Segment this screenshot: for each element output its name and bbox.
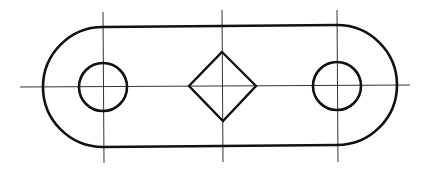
technical-drawing: [0, 0, 425, 173]
middle-vertical-centerline: [222, 10, 223, 162]
right-vertical-centerline: [337, 10, 338, 162]
left-vertical-centerline: [103, 12, 104, 163]
